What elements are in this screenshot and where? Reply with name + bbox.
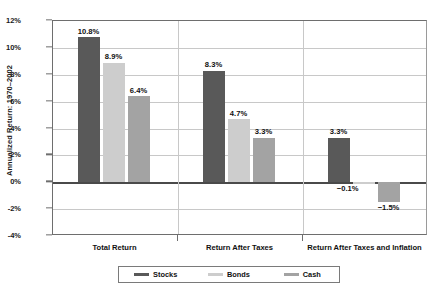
bar-cash-0[interactable] — [128, 96, 150, 182]
chart-legend: StocksBondsCash — [118, 266, 340, 283]
group-separator — [303, 21, 304, 234]
y-tick-label: 0% — [0, 177, 21, 186]
y-tick-label: -2% — [0, 204, 21, 213]
plot-area: 10.8%8.9%6.4%8.3%4.7%3.3%3.3%−0.1%−1.5% — [52, 20, 427, 235]
x-category-label-2: Return After Taxes and Inflation — [307, 243, 421, 252]
bar-bonds-0[interactable] — [103, 63, 125, 183]
bar-stocks-2[interactable] — [328, 138, 350, 182]
group-separator — [178, 21, 179, 234]
legend-item-stocks[interactable]: Stocks — [119, 270, 192, 279]
legend-label: Stocks — [153, 270, 177, 279]
bar-value-label: 8.3% — [190, 60, 238, 69]
bar-cash-1[interactable] — [253, 138, 275, 182]
legend-swatch-icon — [134, 273, 149, 276]
x-category-label-0: Total Return — [92, 243, 136, 252]
bar-value-label: 3.3% — [240, 127, 288, 136]
y-tick-label: 6% — [0, 96, 21, 105]
y-axis-title-text: Annualized Return: 1970–2002 — [6, 64, 15, 175]
x-category-label-1: Return After Taxes — [206, 243, 273, 252]
bar-value-label: −0.1% — [311, 184, 359, 193]
y-tick-label: 10% — [0, 42, 21, 51]
bar-value-label: 10.8% — [65, 27, 113, 36]
bar-value-label: 6.4% — [115, 86, 163, 95]
x-tick-mark — [177, 235, 178, 241]
bar-value-label: −1.5% — [365, 203, 413, 212]
legend-label: Cash — [303, 270, 321, 279]
legend-swatch-icon — [284, 273, 299, 276]
legend-item-bonds[interactable]: Bonds — [192, 270, 265, 279]
y-tick-label: 4% — [0, 123, 21, 132]
y-tick-label: 2% — [0, 150, 21, 159]
legend-label: Bonds — [227, 270, 250, 279]
bar-stocks-1[interactable] — [203, 71, 225, 183]
bar-value-label: 8.9% — [90, 52, 138, 61]
y-tick-label: 12% — [0, 16, 21, 25]
bar-chart-figure: Annualized Return: 1970–2002 12%10%8%6%4… — [0, 0, 441, 299]
legend-swatch-icon — [208, 273, 223, 276]
bar-cash-2[interactable] — [378, 182, 400, 202]
y-tick-label: 8% — [0, 69, 21, 78]
y-tick-label: -4% — [0, 231, 21, 240]
bar-value-label: 4.7% — [215, 109, 263, 118]
legend-item-cash[interactable]: Cash — [266, 270, 339, 279]
gridline — [53, 48, 426, 49]
x-tick-mark — [302, 235, 303, 241]
bar-value-label: 3.3% — [315, 127, 363, 136]
